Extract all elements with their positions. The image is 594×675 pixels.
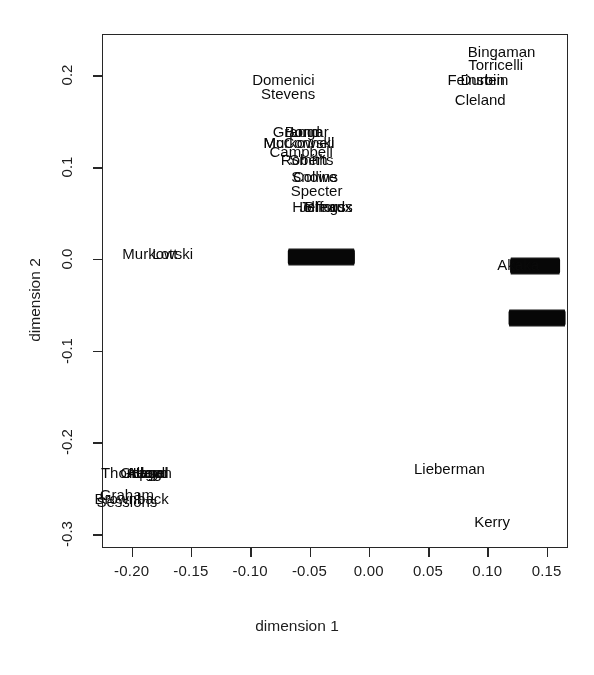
x-tick-mark — [191, 548, 193, 557]
x-tick-mark — [428, 548, 430, 557]
data-point-label: Akaka — [497, 257, 539, 272]
x-tick-mark — [310, 548, 312, 557]
x-tick-label: -0.05 — [292, 562, 327, 579]
data-point-label: Smith — [289, 151, 327, 166]
x-tick-label: 0.05 — [413, 562, 443, 579]
data-point-label: Lloyd — [133, 464, 169, 479]
data-point-label: Durbin — [461, 71, 505, 86]
x-tick-mark — [547, 548, 549, 557]
data-point-label: Cleland — [455, 92, 506, 107]
x-tick-label: -0.15 — [173, 562, 208, 579]
dense-label-cluster — [288, 250, 354, 264]
y-tick-mark — [93, 442, 102, 444]
data-point-label: Lieberman — [414, 461, 485, 476]
y-tick-label: -0.3 — [58, 512, 75, 556]
x-tick-label: 0.10 — [472, 562, 502, 579]
data-point-label: Kerry — [474, 514, 510, 529]
y-tick-mark — [93, 351, 102, 353]
y-tick-label: -0.2 — [58, 420, 75, 464]
y-tick-mark — [93, 167, 102, 169]
data-point-label: Breaux — [305, 198, 353, 213]
y-tick-label: 0.2 — [58, 53, 75, 97]
x-tick-label: 0.15 — [532, 562, 562, 579]
data-point-label: Specter — [291, 183, 343, 198]
x-tick-label: -0.20 — [114, 562, 149, 579]
data-point-label: Brownback — [95, 490, 169, 505]
y-tick-mark — [93, 259, 102, 261]
x-tick-mark — [132, 548, 134, 557]
y-tick-label: 0.1 — [58, 145, 75, 189]
y-tick-label: -0.1 — [58, 329, 75, 373]
x-tick-label: -0.10 — [233, 562, 268, 579]
y-axis-title: dimension 2 — [26, 220, 44, 380]
y-tick-mark — [93, 534, 102, 536]
x-tick-label: 0.00 — [354, 562, 384, 579]
x-tick-mark — [250, 548, 252, 557]
x-tick-mark — [369, 548, 371, 557]
x-axis-title: dimension 1 — [0, 617, 594, 635]
y-tick-label: 0.0 — [58, 237, 75, 281]
y-tick-mark — [93, 75, 102, 77]
x-tick-mark — [487, 548, 489, 557]
data-point-label: Lott — [152, 246, 177, 261]
dense-label-cluster — [509, 311, 566, 325]
data-point-label: Stevens — [261, 85, 315, 100]
plot-area — [102, 34, 568, 548]
